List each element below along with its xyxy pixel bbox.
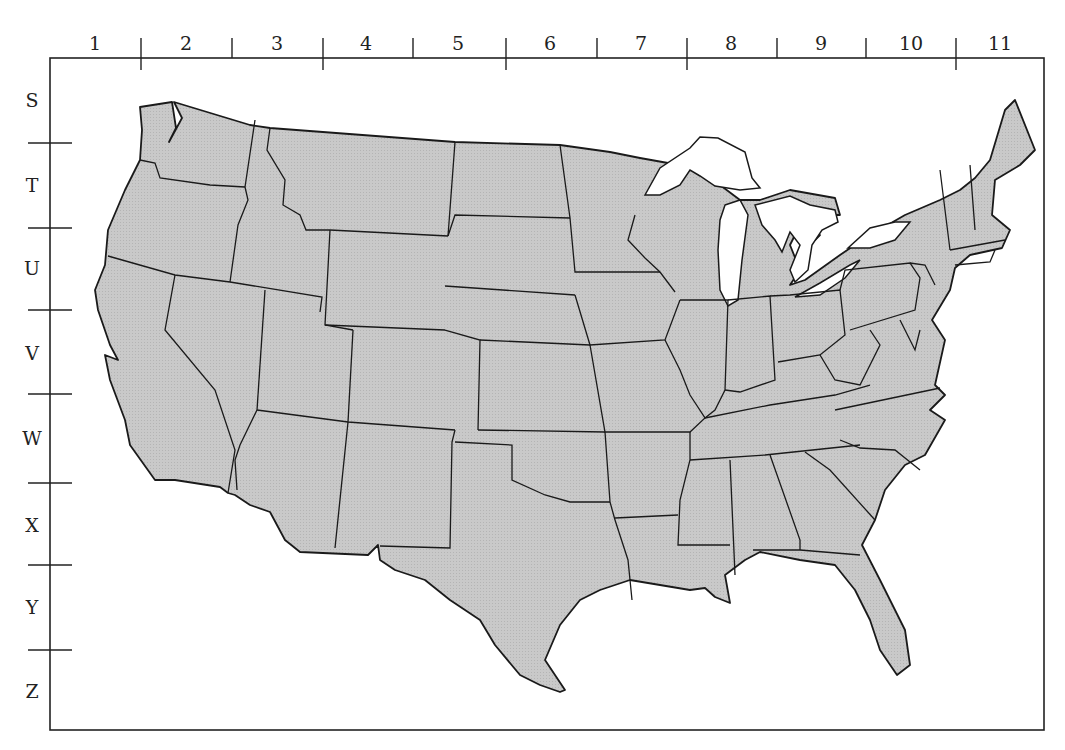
row-label: Y — [25, 596, 39, 618]
grid-map: 1 2 3 4 5 6 7 8 9 10 11 S T U V W X Y Z — [0, 0, 1065, 750]
row-label: W — [22, 427, 42, 449]
column-label: 4 — [360, 32, 372, 54]
column-label: 6 — [544, 32, 556, 54]
column-label: 1 — [89, 32, 101, 54]
column-label: 8 — [725, 32, 737, 54]
row-labels: S T U V W X Y Z — [22, 89, 42, 702]
column-label: 2 — [180, 32, 192, 54]
column-label: 5 — [452, 32, 464, 54]
column-label: 7 — [635, 32, 647, 54]
contiguous-us-outline — [95, 100, 1035, 692]
row-label: X — [25, 514, 39, 536]
row-label: T — [26, 174, 39, 196]
column-label: 3 — [271, 32, 283, 54]
column-label: 10 — [899, 32, 923, 54]
column-labels: 1 2 3 4 5 6 7 8 9 10 11 — [89, 32, 1012, 54]
column-label: 11 — [988, 32, 1012, 54]
row-label: S — [25, 89, 38, 111]
us-landmass — [95, 100, 1035, 692]
row-label: V — [24, 342, 39, 364]
row-label: Z — [25, 680, 38, 702]
row-label: U — [24, 257, 40, 279]
column-label: 9 — [815, 32, 827, 54]
